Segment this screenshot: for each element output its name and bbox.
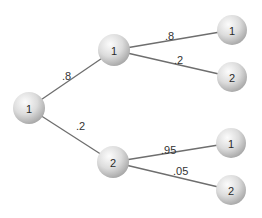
- edge-probability-label: .2: [76, 120, 85, 132]
- tree-node-leaf11: 1: [217, 15, 247, 45]
- tree-node-leaf22: 2: [216, 175, 246, 205]
- tree-edge: [114, 50, 232, 77]
- edge-probability-label: .95: [161, 144, 176, 156]
- node-label: 1: [228, 138, 234, 150]
- tree-node-root: 1: [13, 92, 45, 124]
- tree-node-mid1: 1: [98, 34, 130, 66]
- node-label: 1: [111, 45, 117, 57]
- node-label: 2: [110, 157, 116, 169]
- tree-edge: [113, 162, 231, 190]
- node-label: 1: [229, 25, 235, 37]
- node-label: 2: [228, 185, 234, 197]
- node-label: 1: [26, 103, 32, 115]
- edge-probability-label: .05: [173, 165, 188, 177]
- tree-node-mid2: 2: [97, 146, 129, 178]
- probability-tree: .8.2.8.2.95.05 1121212: [0, 0, 262, 218]
- edge-probability-label: .8: [62, 70, 71, 82]
- edge-probability-label: .8: [165, 30, 174, 42]
- node-label: 2: [229, 72, 235, 84]
- tree-node-leaf21: 1: [216, 128, 246, 158]
- tree-node-leaf12: 2: [217, 62, 247, 92]
- edge-probability-label: .2: [174, 54, 183, 66]
